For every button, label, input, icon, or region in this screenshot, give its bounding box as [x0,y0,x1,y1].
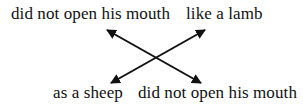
chiasmus-arrows [0,0,303,108]
arrow-topleft-bottomright [107,30,201,83]
arrow-topright-bottomleft [111,30,205,83]
